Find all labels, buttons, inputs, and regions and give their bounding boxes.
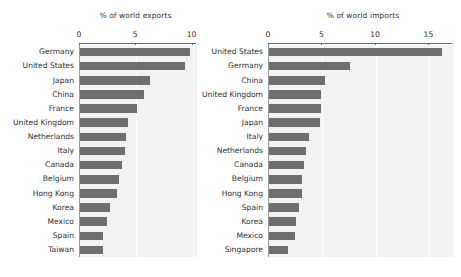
bar xyxy=(269,246,288,255)
plot-area-exports xyxy=(79,45,197,257)
category-label: Japan xyxy=(191,119,263,127)
category-label: Spain xyxy=(2,232,74,240)
x-axis-imports: 051015 xyxy=(268,30,452,44)
bar xyxy=(269,147,306,156)
x-tick-label: 0 xyxy=(77,30,82,39)
bar xyxy=(269,217,296,226)
category-label: Korea xyxy=(2,204,74,212)
category-label: Taiwan xyxy=(2,246,74,254)
category-label: China xyxy=(191,77,263,85)
x-tick-label: 0 xyxy=(266,30,271,39)
category-label: France xyxy=(2,105,74,113)
bar xyxy=(80,62,185,71)
category-label: Korea xyxy=(191,218,263,226)
category-label: Germany xyxy=(191,62,263,70)
chart-panel-imports: % of world imports 051015 United StatesG… xyxy=(196,0,461,277)
bar xyxy=(269,104,321,113)
bar xyxy=(80,118,128,127)
category-label: Italy xyxy=(191,133,263,141)
bar xyxy=(80,48,190,57)
category-label: United States xyxy=(191,48,263,56)
bar xyxy=(80,217,107,226)
dual-bar-chart-figure: % of world exports 0510 GermanyUnited St… xyxy=(0,0,461,277)
chart-panel-exports: % of world exports 0510 GermanyUnited St… xyxy=(0,0,200,277)
bar xyxy=(269,189,302,198)
gridline xyxy=(429,45,430,257)
category-label: United Kingdom xyxy=(191,91,263,99)
category-label: China xyxy=(2,91,74,99)
bar xyxy=(269,161,304,170)
plot-area-imports xyxy=(268,45,453,257)
x-tick-label: 5 xyxy=(133,30,138,39)
bar xyxy=(269,76,325,85)
bar xyxy=(269,133,309,142)
bar xyxy=(269,62,350,71)
bar xyxy=(80,90,144,99)
x-tick-label: 10 xyxy=(187,30,197,39)
category-label: Belgium xyxy=(2,175,74,183)
category-label: Netherlands xyxy=(191,147,263,155)
bar xyxy=(80,203,110,212)
category-label: Japan xyxy=(2,77,74,85)
x-axis-line xyxy=(268,43,452,44)
bar xyxy=(80,147,125,156)
bar xyxy=(269,118,320,127)
bar xyxy=(80,76,150,85)
bar xyxy=(269,175,302,184)
category-label: United States xyxy=(2,62,74,70)
bar xyxy=(80,104,137,113)
bar xyxy=(80,133,126,142)
category-label: Mexico xyxy=(191,232,263,240)
chart-title-imports: % of world imports xyxy=(268,11,458,20)
category-label: Singapore xyxy=(191,246,263,254)
gridline xyxy=(376,45,377,257)
category-label: Spain xyxy=(191,204,263,212)
bar xyxy=(80,189,117,198)
x-axis-line xyxy=(79,43,196,44)
bar xyxy=(269,232,295,241)
bar xyxy=(80,161,122,170)
chart-title-exports: % of world exports xyxy=(58,11,213,20)
x-axis-exports: 0510 xyxy=(79,30,196,44)
bar xyxy=(269,203,299,212)
category-label: Hong Kong xyxy=(191,190,263,198)
bar xyxy=(80,232,103,241)
bar xyxy=(80,175,119,184)
category-label: Netherlands xyxy=(2,133,74,141)
category-label: United Kingdom xyxy=(2,119,74,127)
bar xyxy=(80,246,103,255)
category-label: Mexico xyxy=(2,218,74,226)
category-label: Italy xyxy=(2,147,74,155)
category-label: Canada xyxy=(2,161,74,169)
category-label: Germany xyxy=(2,48,74,56)
x-tick-label: 15 xyxy=(424,30,434,39)
bar xyxy=(269,48,442,57)
bar xyxy=(269,90,321,99)
category-label: Hong Kong xyxy=(2,190,74,198)
category-label: France xyxy=(191,105,263,113)
category-label: Belgium xyxy=(191,175,263,183)
x-tick-label: 10 xyxy=(370,30,380,39)
category-label: Canada xyxy=(191,161,263,169)
x-tick-label: 5 xyxy=(319,30,324,39)
